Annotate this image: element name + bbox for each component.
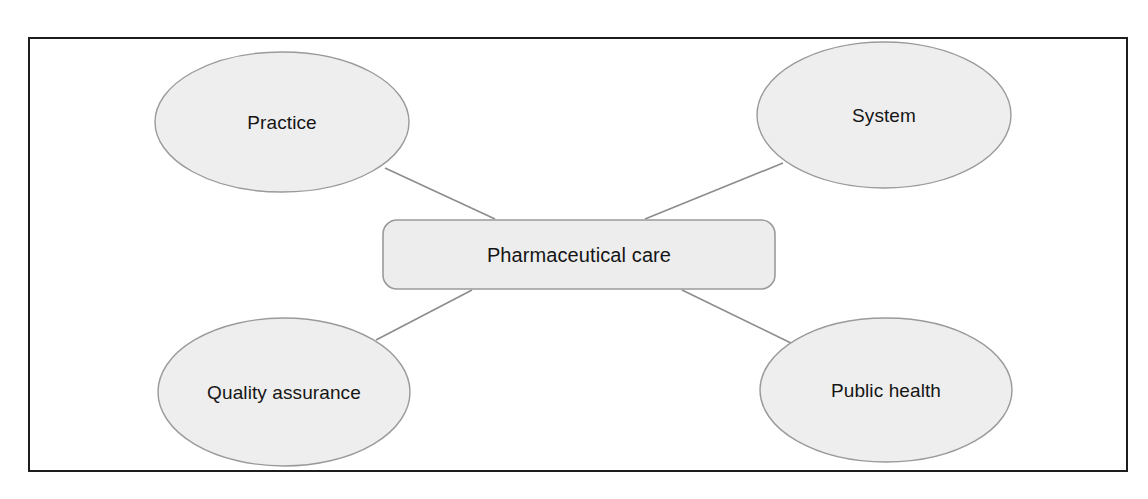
quality-assurance-label: Quality assurance xyxy=(207,382,361,403)
node-pharmaceutical-care[interactable]: Pharmaceutical care xyxy=(383,220,775,289)
node-public-health[interactable]: Public health xyxy=(760,318,1012,462)
practice-label: Practice xyxy=(247,112,316,133)
pharmaceutical-care-label: Pharmaceutical care xyxy=(487,244,671,266)
public-health-label: Public health xyxy=(831,380,941,401)
node-system[interactable]: System xyxy=(757,42,1011,188)
node-practice[interactable]: Practice xyxy=(155,52,409,192)
concept-map-svg: Practice System Quality assurance Public… xyxy=(0,0,1148,499)
node-quality-assurance[interactable]: Quality assurance xyxy=(158,318,410,466)
diagram-canvas: Practice System Quality assurance Public… xyxy=(0,0,1148,499)
system-label: System xyxy=(852,105,916,126)
